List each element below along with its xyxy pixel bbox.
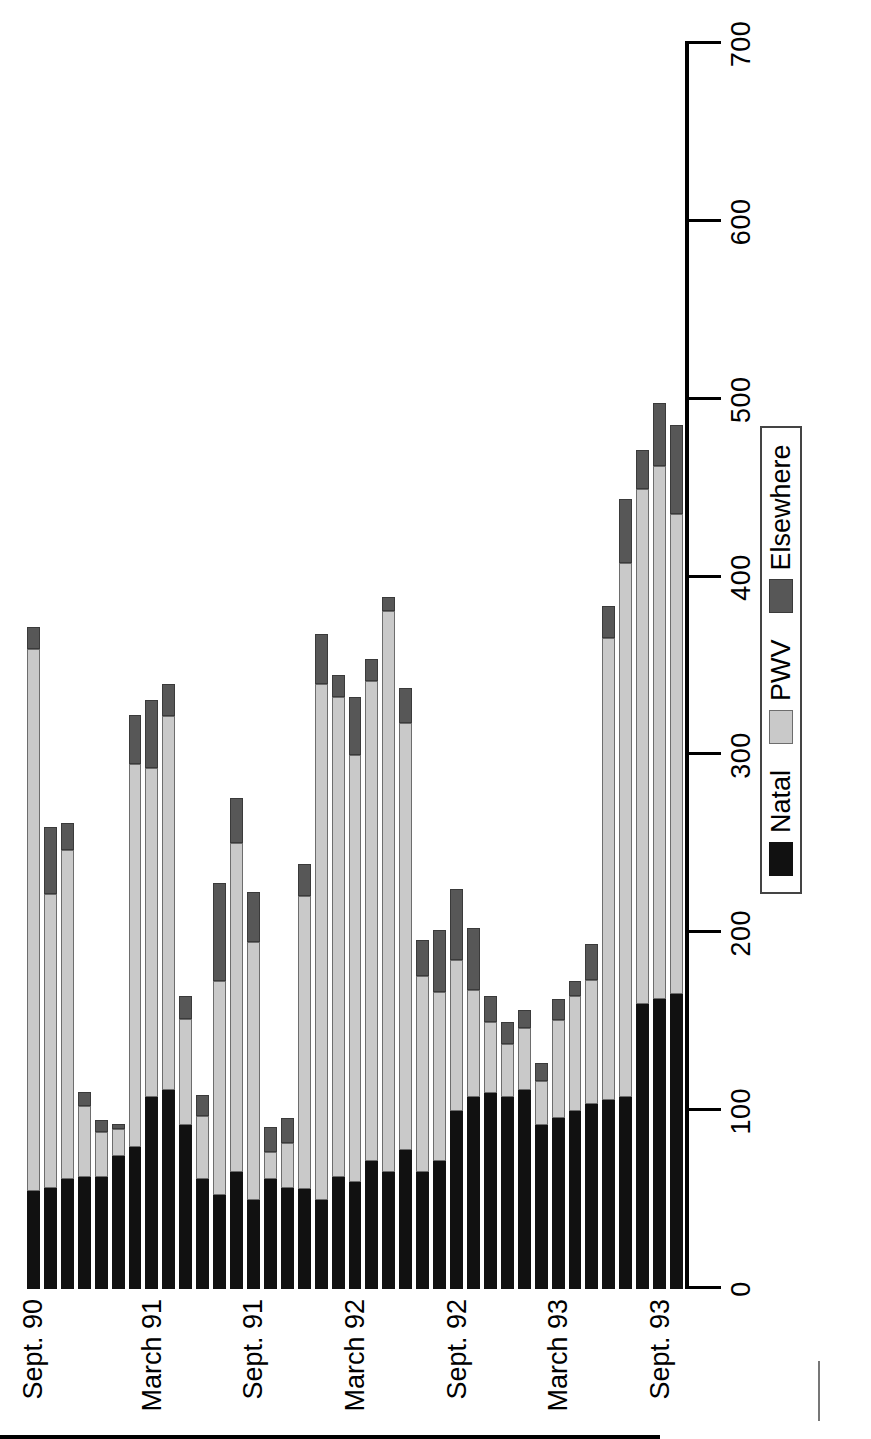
- bar-row: [585, 44, 598, 1289]
- bar-segment-elsewhere: [264, 1127, 277, 1152]
- bar-segment-elsewhere: [196, 1095, 209, 1116]
- bar-row: [399, 44, 412, 1289]
- category-tick-label: Sept. 90: [18, 1299, 49, 1439]
- category-tick-label: March 92: [340, 1299, 371, 1439]
- bar-segment-natal: [44, 1188, 57, 1289]
- bar-segment-pwv: [129, 764, 142, 1146]
- bar-row: [78, 44, 91, 1289]
- bar-segment-elsewhere: [95, 1120, 108, 1132]
- bar-segment-elsewhere: [602, 606, 615, 638]
- bar-segment-natal: [399, 1150, 412, 1289]
- bar-segment-elsewhere: [484, 996, 497, 1023]
- value-tick: [685, 1108, 721, 1111]
- bar-segment-natal: [602, 1100, 615, 1289]
- bar-segment-elsewhere: [145, 700, 158, 768]
- bar-segment-elsewhere: [399, 688, 412, 724]
- bar-segment-elsewhere: [298, 864, 311, 896]
- value-tick: [685, 397, 721, 400]
- bar-segment-elsewhere: [78, 1092, 91, 1106]
- bar-segment-pwv: [145, 768, 158, 1097]
- bar-segment-pwv: [535, 1081, 548, 1125]
- page-rule: [818, 1361, 820, 1421]
- bar-segment-natal: [636, 1004, 649, 1289]
- bar-row: [501, 44, 514, 1289]
- bar-row: [196, 44, 209, 1289]
- bar-row: [213, 44, 226, 1289]
- bar-row: [315, 44, 328, 1289]
- bar-segment-elsewhere: [365, 659, 378, 680]
- chart-legend: NatalPWVElsewhere: [760, 426, 802, 894]
- legend-swatch-natal: [769, 842, 793, 876]
- bar-segment-pwv: [27, 649, 40, 1191]
- value-tick: [685, 219, 721, 222]
- value-tick: [685, 41, 721, 44]
- bar-row: [636, 44, 649, 1289]
- bar-row: [95, 44, 108, 1289]
- bar-segment-elsewhere: [450, 889, 463, 960]
- bar-segment-elsewhere: [585, 944, 598, 980]
- bar-segment-pwv: [332, 697, 345, 1177]
- bar-segment-pwv: [112, 1129, 125, 1156]
- bar-segment-pwv: [602, 638, 615, 1100]
- bar-row: [535, 44, 548, 1289]
- bar-segment-elsewhere: [230, 798, 243, 842]
- bar-segment-elsewhere: [636, 450, 649, 489]
- bar-row: [247, 44, 260, 1289]
- bar-segment-pwv: [433, 992, 446, 1161]
- bar-row: [264, 44, 277, 1289]
- bar-row: [450, 44, 463, 1289]
- bar-segment-elsewhere: [61, 823, 74, 850]
- bar-segment-elsewhere: [281, 1118, 294, 1143]
- bar-segment-natal: [230, 1172, 243, 1289]
- category-tick-label: March 93: [543, 1299, 574, 1439]
- category-tick-label: March 91: [136, 1299, 167, 1439]
- bar-segment-pwv: [281, 1143, 294, 1187]
- bar-segment-natal: [653, 999, 666, 1289]
- bar-segment-natal: [552, 1118, 565, 1289]
- bar-segment-elsewhere: [653, 403, 666, 465]
- category-tick-label: Sept. 92: [441, 1299, 472, 1439]
- bar-row: [281, 44, 294, 1289]
- bar-segment-natal: [112, 1156, 125, 1289]
- bar-segment-elsewhere: [315, 635, 328, 685]
- bar-row: [653, 44, 666, 1289]
- bar-segment-elsewhere: [433, 930, 446, 992]
- bar-row: [602, 44, 615, 1289]
- value-tick-label: 700: [726, 21, 757, 68]
- bar-segment-natal: [349, 1182, 362, 1289]
- bar-segment-natal: [518, 1090, 531, 1289]
- bar-segment-natal: [247, 1200, 260, 1289]
- legend-item: Natal: [766, 770, 797, 876]
- bar-row: [518, 44, 531, 1289]
- bar-segment-pwv: [619, 563, 632, 1097]
- bar-segment-elsewhere: [332, 675, 345, 696]
- bar-segment-elsewhere: [349, 697, 362, 756]
- bar-row: [484, 44, 497, 1289]
- bar-segment-elsewhere: [467, 928, 480, 990]
- bar-segment-pwv: [518, 1028, 531, 1090]
- legend-swatch-pwv: [769, 710, 793, 744]
- bar-row: [382, 44, 395, 1289]
- bar-segment-natal: [450, 1111, 463, 1289]
- bar-row: [332, 44, 345, 1289]
- bar-segment-elsewhere: [179, 996, 192, 1019]
- bar-segment-pwv: [467, 990, 480, 1097]
- bar-row: [298, 44, 311, 1289]
- bar-segment-pwv: [484, 1022, 497, 1093]
- value-tick-label: 200: [726, 910, 757, 957]
- bar-segment-elsewhere: [247, 892, 260, 942]
- bar-segment-natal: [179, 1125, 192, 1289]
- bar-segment-pwv: [670, 514, 683, 994]
- bar-segment-pwv: [653, 466, 666, 1000]
- bar-segment-natal: [332, 1177, 345, 1289]
- bar-segment-pwv: [552, 1020, 565, 1118]
- value-tick: [685, 752, 721, 755]
- bar-segment-pwv: [78, 1106, 91, 1177]
- bar-segment-pwv: [196, 1116, 209, 1178]
- bar-segment-elsewhere: [535, 1063, 548, 1081]
- rotated-chart-container: 0100200300400500600700 Sept. 90March 91S…: [0, 0, 871, 1439]
- legend-swatch-elsewhere: [769, 579, 793, 613]
- bar-segment-pwv: [585, 980, 598, 1105]
- legend-item: PWV: [766, 639, 797, 744]
- value-tick-label: 400: [726, 554, 757, 601]
